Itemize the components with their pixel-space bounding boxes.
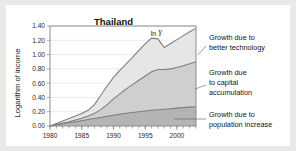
annotation-population-line2: population increase (209, 120, 272, 129)
annotation-capital-line1: Growth due (209, 68, 247, 77)
annotation-capital-line3: accumulation (209, 88, 252, 97)
x-tick-label: 1980 (43, 132, 58, 139)
x-tick-label: 1990 (106, 132, 121, 139)
x-tick-label: 2000 (170, 132, 185, 139)
leader-line-capital (195, 85, 206, 89)
y-tick-label: 1.00 (32, 51, 45, 58)
stacked-areas (50, 28, 196, 126)
y-tick-label: 0.40 (32, 94, 45, 101)
y-tick-label: 0.60 (32, 80, 45, 87)
y-tick-label: 1.20 (32, 37, 45, 44)
chart-title: Thailand (94, 16, 133, 27)
y-tick-label: 0.80 (32, 65, 45, 72)
x-tick-label: 1995 (138, 132, 153, 139)
y-axis-ticks: 0.000.200.400.600.801.001.201.40 (32, 22, 50, 129)
annotation-capital-line2: to capital (209, 78, 239, 87)
y-tick-label: 0.20 (32, 108, 45, 115)
thailand-growth-accounting-chart: Thailand Logarithm of income 0.000.200.4… (6, 5, 290, 146)
series-label-y: Y (158, 30, 163, 38)
x-axis-ticks: 19801985199019952000 (43, 126, 196, 139)
y-axis-label: Logarithm of income (13, 49, 22, 118)
annotation-technology-line1: Growth due to (209, 33, 255, 42)
series-label-ln: ln (151, 30, 157, 37)
y-tick-label: 1.40 (32, 22, 45, 29)
leader-line-technology (198, 46, 206, 55)
x-tick-label: 1985 (74, 132, 89, 139)
y-tick-label: 0.00 (32, 122, 45, 129)
chart-card: Thailand Logarithm of income 0.000.200.4… (6, 5, 290, 146)
annotation-technology-line2: better technology (209, 43, 265, 52)
annotation-population-line1: Growth due to (209, 110, 255, 119)
